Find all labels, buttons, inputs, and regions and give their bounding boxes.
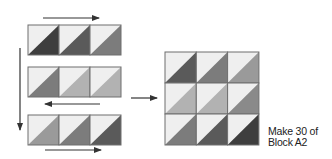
block-cell-2-2 xyxy=(196,83,227,114)
final-block xyxy=(165,52,259,145)
hst-unit-row-3-3 xyxy=(90,115,121,145)
block-cell-1-2 xyxy=(196,52,227,83)
hst-unit-row-2-3 xyxy=(90,67,121,97)
block-cell-2-3 xyxy=(228,83,259,114)
block-caption: Make 30 of Block A2 xyxy=(268,126,318,148)
block-cell-3-1 xyxy=(165,114,196,145)
block-cell-2-1 xyxy=(165,83,196,114)
hst-unit-row-1-2 xyxy=(59,25,90,55)
hst-unit-row-3-2 xyxy=(59,115,90,145)
block-cell-1-1 xyxy=(165,52,196,83)
block-cell-3-2 xyxy=(196,114,227,145)
hst-unit-row-1-3 xyxy=(90,25,121,55)
hst-unit-row-2-1 xyxy=(28,67,59,97)
block-cell-1-3 xyxy=(228,52,259,83)
block-cell-3-3 xyxy=(228,114,259,145)
hst-unit-row-2-2 xyxy=(59,67,90,97)
hst-unit-row-3-1 xyxy=(28,115,59,145)
block-rows xyxy=(28,25,121,145)
hst-unit-row-1-1 xyxy=(28,25,59,55)
caption-line-2: Block A2 xyxy=(268,137,318,148)
